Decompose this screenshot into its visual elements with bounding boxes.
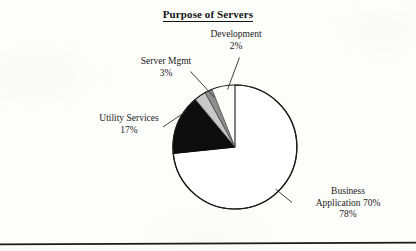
pie-label-utility-services-value: 17% xyxy=(78,125,180,137)
pie-label-development-value: 2% xyxy=(180,41,292,53)
pie-label-business-application-value: 78% xyxy=(288,209,408,221)
pie-label-server-mgmt-value: 3% xyxy=(124,68,208,80)
pie-label-utility-services-name: Utility Services xyxy=(78,113,180,125)
pie-label-development: Development 2% xyxy=(180,29,292,52)
page-divider-rule xyxy=(0,241,416,247)
page-canvas: Purpose of Servers Development 2% Server… xyxy=(0,0,416,251)
pie-label-server-mgmt: Server Mgmt 3% xyxy=(124,56,208,79)
pie-label-development-name: Development xyxy=(180,29,292,41)
pie-label-utility-services: Utility Services 17% xyxy=(78,113,180,136)
pie-label-business-application-name: Business xyxy=(288,186,408,198)
pie-label-server-mgmt-name: Server Mgmt xyxy=(124,56,208,68)
pie-label-business-application: Business Application 70% 78% xyxy=(288,186,408,221)
pie-label-business-application-name2: Application 70% xyxy=(288,198,408,210)
